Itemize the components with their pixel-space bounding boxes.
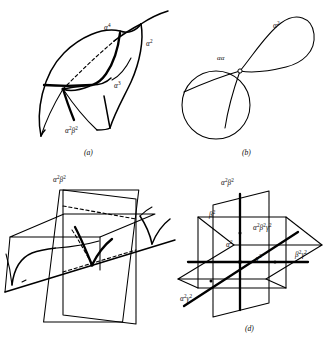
label-gamma-2: γ2 [256, 256, 262, 264]
label-alpha-2-beta-2-top: α2β2 [221, 180, 234, 188]
label-alpha-2: α2 [226, 242, 233, 250]
panel-a-drawing [0, 0, 170, 172]
panel-b-drawing [170, 0, 329, 172]
label-alpha-alpha: αα [217, 55, 225, 62]
panel-d: α2β2 β2 α2 α2β2γ2 γ2 β2γ2 α2γ2 (d) [170, 172, 329, 345]
label-alpha-2-gamma-2: α2γ2 [180, 296, 192, 304]
label-alpha-3: α3 [114, 83, 121, 91]
label-alpha-2-beta-2-gamma-2: α2β2γ2 [253, 225, 272, 233]
label-alpha-2-beta-2-top: α2β2 [53, 177, 66, 185]
caption-b: (b) [242, 148, 251, 157]
caption-d: (d) [245, 324, 254, 333]
panel-c: α2β2 α2 α3 α3β2 β2 (c) [0, 172, 175, 345]
label-alpha-2-beta-2: α2β2 [65, 128, 78, 136]
label-alpha-2: α2 [146, 41, 153, 49]
label-beta-2-gamma-2: β2γ2 [295, 252, 307, 260]
caption-a: (a) [84, 148, 93, 157]
panel-b: αα α2 (b) [170, 0, 329, 172]
figure-sheet: α4 α2 α3 α2β2 (a) αα α2 (b) [0, 0, 329, 345]
panel-a: α4 α2 α3 α2β2 (a) [0, 0, 170, 172]
panel-c-drawing [0, 172, 175, 345]
label-beta-2: β2 [209, 212, 215, 220]
label-alpha-4: α4 [104, 25, 111, 33]
label-alpha-2: α2 [273, 23, 280, 31]
